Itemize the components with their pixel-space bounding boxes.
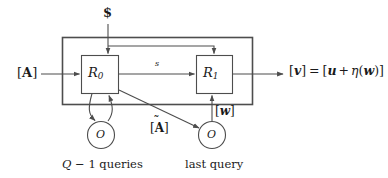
diagram-canvas: $ R0 R1 O O [A] s [̃A] [w] [v]=[u+η(w)] … [0,0,388,178]
oracle-left-label: O [96,129,105,140]
r0-label: R0 [88,66,103,80]
input-a-label: [A] [17,66,37,79]
dollar-branch-to-r1-arrow [108,46,214,54]
oracle-right-caption: last query [185,159,243,171]
r1-label-sub: 1 [213,71,219,81]
out-rhs-plus: + [337,63,351,78]
oracle-left-caption: Q − 1 queries [62,159,143,171]
out-equals: = [306,63,322,78]
last-query-input-label: [̃A] [150,122,169,134]
atilde-var-wrap: ̃A [155,122,164,134]
r0-to-oracle-left-arrow [89,94,95,121]
oracle-response-w-label: [w] [215,105,235,117]
caption-minus-one: − 1 [71,157,99,171]
output-equation: [v]=[u+η(w)] [289,65,384,78]
out-rhs-u: u [327,63,336,78]
diagram-vector-layer [0,0,388,178]
input-a-var: A [22,65,32,80]
w-bracket-close: ] [230,104,235,118]
atilde-accent: ̃ [155,115,164,126]
w-var: w [220,104,230,118]
out-rhs-eta: η [351,63,359,78]
r1-label-base: R [203,65,213,80]
input-a-bracket-close: ] [32,65,37,80]
r1-label: R1 [203,66,218,80]
oracle-right-label: O [207,129,216,140]
r0-label-sub: 0 [98,71,104,81]
dollar-sign-icon: $ [103,6,112,19]
oracle-left-to-r0-arrow [108,96,112,122]
r0-label-base: R [88,65,98,80]
out-rhs-close: ] [379,63,384,78]
caption-queries-word: queries [99,157,142,171]
out-rhs-w: w [363,63,374,78]
state-s-label: s [155,60,159,68]
atilde-bracket-close: ] [164,121,169,135]
